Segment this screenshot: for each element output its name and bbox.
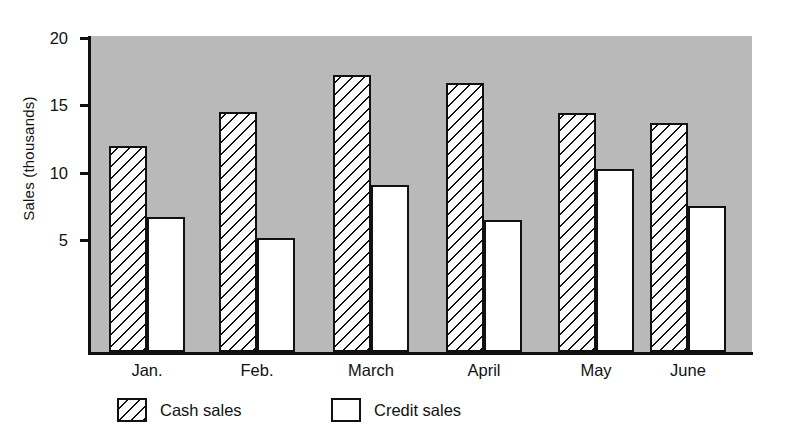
- bar-credit-feb: [257, 238, 295, 352]
- y-axis-title: Sales (thousands): [20, 59, 37, 259]
- bar-cash-feb: [219, 112, 257, 352]
- bar-cash-may: [558, 113, 596, 352]
- x-axis-line: [88, 352, 753, 355]
- x-tick-label-april: April: [444, 362, 524, 379]
- y-tick-label-10: 10: [34, 165, 68, 182]
- bar-credit-jan: [147, 217, 185, 352]
- y-tick-label-5: 5: [34, 232, 68, 249]
- bar-credit-april: [484, 220, 522, 352]
- bar-cash-april: [446, 83, 484, 352]
- x-tick-label-jan: Jan.: [107, 362, 187, 379]
- x-tick-label-may: May: [556, 362, 636, 379]
- bar-cash-jan: [109, 146, 147, 352]
- legend-item-credit-sales: Credit sales: [331, 398, 461, 422]
- bar-credit-june: [688, 206, 726, 352]
- bar-cash-june: [650, 123, 688, 352]
- x-tick-label-feb: Feb.: [217, 362, 297, 379]
- legend-label-cash-sales: Cash sales: [160, 401, 242, 420]
- legend-item-cash-sales: Cash sales: [117, 398, 242, 422]
- legend-swatch-cash-icon: [117, 398, 147, 422]
- bar-credit-march: [371, 185, 409, 352]
- legend-label-credit-sales: Credit sales: [374, 401, 461, 420]
- bar-credit-may: [596, 169, 634, 352]
- x-tick-label-june: June: [648, 362, 728, 379]
- x-tick-label-march: March: [331, 362, 411, 379]
- y-tick-label-15: 15: [34, 97, 68, 114]
- y-tick-label-20: 20: [34, 30, 68, 47]
- bar-chart: Sales (thousands) 20 15 10 5 Jan. Feb. M…: [0, 0, 786, 446]
- legend-swatch-credit-icon: [331, 398, 361, 422]
- y-axis-line: [88, 36, 91, 355]
- bar-cash-march: [333, 75, 371, 352]
